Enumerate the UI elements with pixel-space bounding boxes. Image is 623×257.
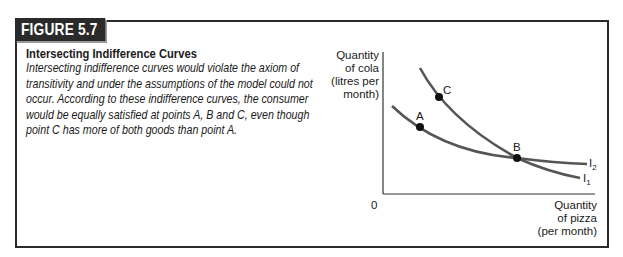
point-b-label: B	[513, 141, 521, 153]
indifference-chart: C A B I2 I1	[0, 0, 623, 257]
point-a-label: A	[416, 110, 424, 122]
point-c	[435, 93, 443, 101]
point-c-label: C	[443, 84, 451, 96]
point-b	[513, 154, 521, 162]
point-a	[416, 123, 424, 131]
curve-i2-label: I2	[589, 157, 597, 172]
curve-i1-label: I1	[583, 172, 591, 187]
